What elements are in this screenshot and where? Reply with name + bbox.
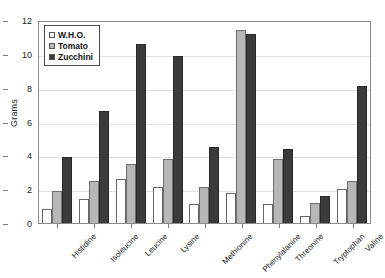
bar <box>347 181 357 223</box>
y-axis-tick-label: 10 <box>8 50 32 60</box>
bar <box>320 196 330 223</box>
x-axis-tick-label: Methionine <box>220 232 254 266</box>
legend-item-label: W.H.O. <box>58 30 85 40</box>
legend-item: Tomato <box>49 40 93 51</box>
bar-group <box>226 22 256 223</box>
y-axis-tick-label: 2 <box>8 185 32 195</box>
bar-group <box>116 22 146 223</box>
legend-item-label: Zucchini <box>58 52 93 62</box>
y-axis-tick-label: 6 <box>8 118 32 128</box>
x-axis-tick-mark <box>316 224 317 228</box>
bar <box>173 56 183 223</box>
bar <box>153 187 163 223</box>
bar <box>89 181 99 223</box>
bar <box>79 199 89 223</box>
x-axis-tick-label: Isoleucine <box>108 232 140 264</box>
gray-square-icon <box>49 43 55 49</box>
bar <box>246 34 256 223</box>
bar <box>263 204 273 223</box>
y-axis-tick-mark <box>3 123 8 124</box>
bar <box>337 189 347 223</box>
bar <box>52 191 62 223</box>
x-axis-tick-mark <box>279 224 280 228</box>
bar-group <box>337 22 367 223</box>
x-axis-tick-mark <box>353 224 354 228</box>
white-square-icon <box>49 32 55 38</box>
y-axis-tick-label: 8 <box>8 84 32 94</box>
black-square-icon <box>49 54 55 60</box>
bar <box>273 159 283 223</box>
bar <box>236 30 246 223</box>
bar-group <box>300 22 330 223</box>
y-axis-tick-label: 4 <box>8 151 32 161</box>
x-axis-tick-mark <box>168 224 169 228</box>
bar <box>300 216 310 223</box>
bar <box>199 187 209 223</box>
x-axis-tick-label: Leucine <box>143 232 169 258</box>
y-axis-tick-mark <box>3 224 8 225</box>
y-axis-tick-label: 0 <box>8 219 32 229</box>
bar <box>116 179 126 223</box>
bar <box>136 44 146 223</box>
y-axis-tick-mark <box>3 55 8 56</box>
bar <box>126 164 136 223</box>
bar <box>226 193 236 223</box>
y-axis-tick-mark <box>3 156 8 157</box>
y-axis-tick-label: 12 <box>8 16 32 26</box>
legend-item: W.H.O. <box>49 29 93 40</box>
y-axis-tick-mark <box>3 21 8 22</box>
y-axis-tick-labels: 121086420 <box>8 14 32 230</box>
bar <box>189 204 199 223</box>
x-axis-tick-mark <box>131 224 132 228</box>
x-axis-tick-label: Histidine <box>69 232 97 260</box>
chart-legend: W.H.O.TomatoZucchini <box>44 25 100 66</box>
x-axis-tick-label: Tryptophan <box>331 232 366 267</box>
x-axis-tick-mark <box>57 224 58 228</box>
y-axis-tick-mark <box>3 190 8 191</box>
x-axis-tick-mark <box>94 224 95 228</box>
bar <box>62 157 72 223</box>
bar <box>357 86 367 223</box>
bar <box>310 203 320 223</box>
x-axis-tick-label: Valine <box>363 232 385 254</box>
bar-group <box>189 22 219 223</box>
bar <box>283 149 293 223</box>
x-axis-tick-mark <box>205 224 206 228</box>
bar <box>209 147 219 223</box>
x-axis-tick-label: Lysine <box>178 232 201 255</box>
bar <box>99 111 109 223</box>
y-axis-tick-mark <box>3 89 8 90</box>
x-axis-tick-mark <box>242 224 243 228</box>
legend-item: Zucchini <box>49 51 93 62</box>
legend-item-label: Tomato <box>58 41 88 51</box>
x-axis-tick-label: Phenylalanine <box>260 232 302 274</box>
bar <box>163 159 173 223</box>
bar-group <box>153 22 183 223</box>
bar-group <box>263 22 293 223</box>
x-axis-tick-labels: HistidineIsoleucineLeucineLysineMethioni… <box>38 226 371 278</box>
bar <box>42 209 52 223</box>
